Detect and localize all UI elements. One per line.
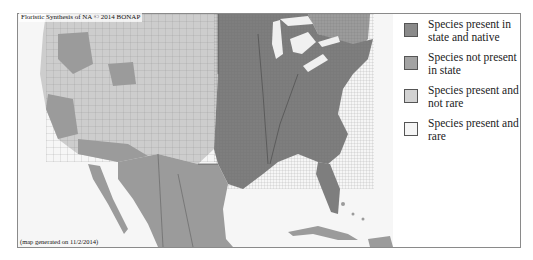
map-generated-date: (map generated on 11/2/2014) [20, 238, 98, 246]
swatch-present-not-rare [404, 89, 418, 103]
swatch-present-native [404, 23, 418, 37]
legend-label: Species present and rare [428, 117, 520, 143]
legend-label: Species not present in state [428, 51, 520, 77]
legend-item-not-present: Species not present in state [396, 47, 520, 80]
north-america-map-graphic [18, 14, 393, 247]
legend-item-present-rare: Species present and rare [396, 113, 520, 146]
map-attribution-title: Floristic Synthesis of NA © 2014 BONAP [19, 13, 142, 22]
legend-item-present-not-rare: Species present and not rare [396, 80, 520, 113]
distribution-map [18, 14, 393, 247]
swatch-not-present [404, 56, 418, 70]
legend-item-present-native: Species present in state and native [396, 14, 520, 47]
map-legend: Species present in state and native Spec… [396, 14, 520, 146]
legend-label: Species present and not rare [428, 84, 520, 110]
swatch-present-rare [404, 122, 418, 136]
legend-label: Species present in state and native [428, 18, 520, 44]
